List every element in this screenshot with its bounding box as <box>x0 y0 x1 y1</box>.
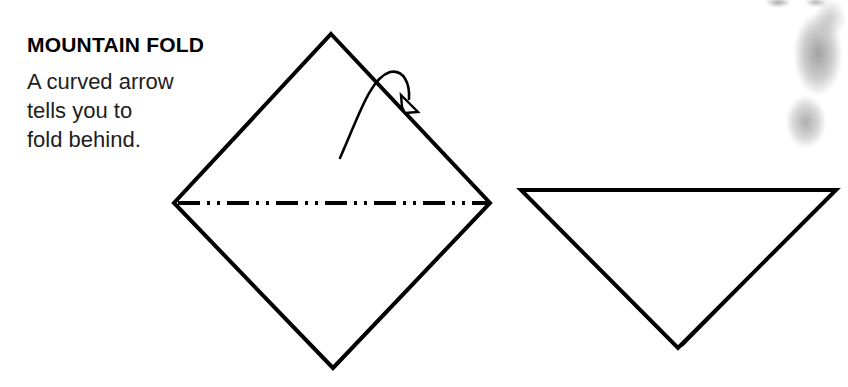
figure-canvas <box>0 0 848 387</box>
result-triangle-outline <box>521 190 836 348</box>
origami-instruction-figure: MOUNTAIN FOLD A curved arrow tells you t… <box>0 0 848 387</box>
arrow-curve-stroke <box>340 72 409 158</box>
folded-behind-layer-edge <box>682 194 832 346</box>
